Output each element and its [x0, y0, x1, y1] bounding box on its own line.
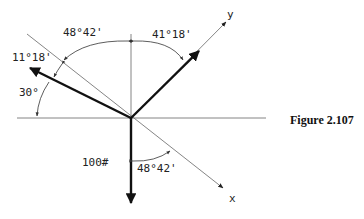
angle-label-bottom: 48°42'	[137, 162, 177, 175]
weight-force-label: 100#	[82, 156, 109, 169]
force-arrow-upper-right	[131, 51, 199, 118]
arc-48-42-top	[64, 41, 128, 60]
angle-label-left-small: 11°18'	[12, 51, 52, 64]
arc-48-42-bottom	[133, 151, 170, 161]
y-axis-label: y	[227, 8, 234, 21]
angle-label-left-lower: 30°	[19, 86, 39, 99]
force-diagram: y x 48°42' 41°18' 11°18' 30° 48°42' 100#…	[0, 0, 364, 219]
arc-11-18-left	[54, 64, 62, 77]
x-axis-label: x	[229, 192, 236, 205]
angle-label-top-left: 48°42'	[63, 26, 103, 39]
arc-41-18-top	[134, 41, 183, 60]
figure-caption: Figure 2.107	[290, 113, 354, 127]
angle-label-top-right: 41°18'	[152, 28, 192, 41]
